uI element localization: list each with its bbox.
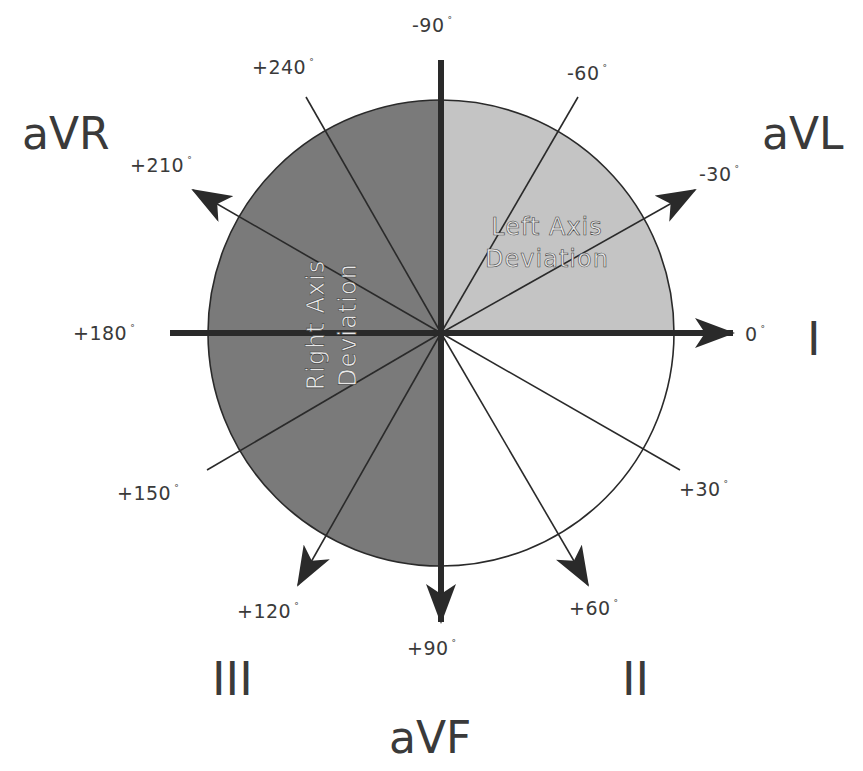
degree-symbol: ° <box>187 155 192 165</box>
degree-symbol: ° <box>603 63 608 73</box>
label-plus-240: +240° <box>252 56 314 78</box>
degree-symbol: ° <box>724 479 729 489</box>
label-minus-60: -60° <box>567 62 608 84</box>
label-text: +210 <box>130 154 184 176</box>
lead-avr: aVR <box>22 108 110 159</box>
label-plus-180: +180° <box>73 322 135 344</box>
label-text: +120 <box>237 600 291 622</box>
label-text: -30 <box>699 163 732 185</box>
left-zone-line2: Deviation <box>462 243 632 275</box>
lead-ii: II <box>622 652 649 706</box>
label-plus-60: +60° <box>569 597 619 619</box>
right-zone-line2: Deviation <box>332 240 364 410</box>
label-text: +180 <box>73 322 127 344</box>
right-zone-line1: Right Axis <box>300 240 332 410</box>
label-minus-30: -30° <box>699 163 740 185</box>
left-zone-line1: Left Axis <box>462 211 632 243</box>
label-text: +240 <box>252 56 306 78</box>
label-text: 0 <box>745 323 758 345</box>
right-axis-deviation-label: Right Axis Deviation <box>300 240 364 410</box>
label-text: -90 <box>412 14 445 36</box>
label-text: +30 <box>679 478 721 500</box>
degree-symbol: ° <box>735 164 740 174</box>
label-text: +90 <box>407 637 449 659</box>
degree-symbol: ° <box>614 598 619 608</box>
label-plus-150: +150° <box>117 482 179 504</box>
label-plus-30: +30° <box>679 478 729 500</box>
label-plus-90: +90° <box>407 637 457 659</box>
degree-symbol: ° <box>130 323 135 333</box>
lead-iii: III <box>212 652 253 706</box>
label-0: 0° <box>745 323 766 345</box>
degree-symbol: ° <box>294 601 299 611</box>
lead-avl: aVL <box>762 108 844 159</box>
label-plus-120: +120° <box>237 600 299 622</box>
degree-symbol: ° <box>174 483 179 493</box>
degree-symbol: ° <box>448 15 453 25</box>
degree-symbol: ° <box>309 57 314 67</box>
normal-axis-region <box>441 333 674 566</box>
label-plus-210: +210° <box>130 154 192 176</box>
degree-symbol: ° <box>452 638 457 648</box>
lead-avf: aVF <box>389 712 471 763</box>
lead-i: I <box>807 312 821 366</box>
label-text: +150 <box>117 482 171 504</box>
label-minus-90: -90° <box>412 14 453 36</box>
degree-symbol: ° <box>761 324 766 334</box>
left-axis-deviation-label: Left Axis Deviation <box>462 211 632 275</box>
label-text: +60 <box>569 597 611 619</box>
label-text: -60 <box>567 62 600 84</box>
